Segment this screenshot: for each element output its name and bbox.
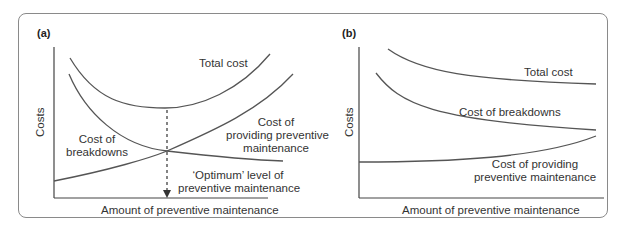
arrow-head-icon bbox=[163, 190, 171, 198]
panel-b-ylabel: Costs bbox=[343, 108, 355, 137]
panel-b-total-cost-label: Total cost bbox=[524, 66, 573, 79]
panel-b-providing-label: Cost of providing preventive maintenance bbox=[470, 158, 600, 184]
panel-a-xlabel: Amount of preventive maintenance bbox=[101, 204, 279, 217]
panel-a-tag: (a) bbox=[37, 27, 50, 39]
panel-b-breakdowns-label: Cost of breakdowns bbox=[459, 106, 561, 119]
panel-a-optimum-label: ‘Optimum’ level of preventive maintenanc… bbox=[178, 169, 298, 195]
panel-a-ylabel: Costs bbox=[34, 108, 46, 137]
panel-a-total-cost-label: Total cost bbox=[199, 57, 248, 70]
panel-a-providing-label: Cost of providing preventive maintenance bbox=[226, 116, 326, 155]
panel-a-breakdowns-label: Cost of breakdowns bbox=[62, 133, 132, 159]
panel-b-xlabel: Amount of preventive maintenance bbox=[402, 204, 580, 217]
panel-b-tag: (b) bbox=[342, 27, 356, 39]
